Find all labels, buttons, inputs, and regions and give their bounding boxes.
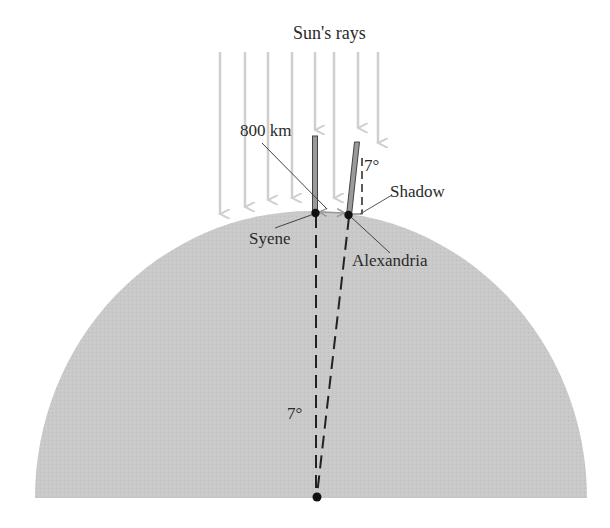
diagram-svg — [0, 0, 610, 528]
earth-dome — [35, 211, 587, 498]
alexandria-label: Alexandria — [352, 252, 428, 269]
earth-center-dot — [313, 493, 322, 502]
distance-arrow — [319, 212, 345, 213]
leader-shadow — [360, 195, 392, 214]
syene-label: Syene — [249, 230, 291, 247]
eratosthenes-diagram: Sun's rays 800 km 7° Shadow Syene Alexan… — [0, 0, 610, 528]
shadow-angle-label: 7° — [364, 157, 379, 174]
gnomon-alexandria — [347, 142, 360, 215]
shadow-label: Shadow — [390, 183, 445, 200]
sun-rays-label: Sun's rays — [293, 24, 366, 42]
distance-label: 800 km — [240, 122, 291, 139]
gnomon-syene — [313, 136, 318, 213]
alexandria-dot — [344, 211, 352, 219]
syene-dot — [311, 209, 319, 217]
center-angle-label: 7° — [287, 405, 302, 422]
